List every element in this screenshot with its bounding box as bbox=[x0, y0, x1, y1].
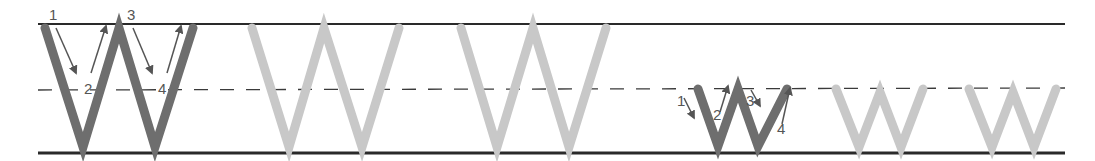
lowercase-w-model: 1 2 3 4 bbox=[677, 86, 790, 146]
step-number: 4 bbox=[777, 120, 785, 137]
lowercase-w-trace[interactable] bbox=[836, 89, 923, 147]
step-number: 3 bbox=[746, 92, 754, 109]
lowercase-w-trace[interactable] bbox=[969, 89, 1056, 147]
arrow-step-3 bbox=[133, 28, 152, 73]
step-number: 3 bbox=[127, 6, 135, 23]
uppercase-w-trace[interactable] bbox=[461, 28, 606, 147]
step-number: 2 bbox=[84, 80, 92, 97]
step-number: 2 bbox=[713, 106, 721, 123]
uppercase-w-trace[interactable] bbox=[252, 28, 399, 147]
handwriting-worksheet: 1 2 3 4 1 2 3 4 bbox=[0, 0, 1095, 161]
step-number: 1 bbox=[49, 6, 57, 23]
step-number: 1 bbox=[677, 92, 685, 109]
uppercase-w-model: 1 2 3 4 bbox=[45, 6, 193, 147]
arrow-step-1 bbox=[684, 98, 694, 118]
step-number: 4 bbox=[158, 80, 166, 97]
